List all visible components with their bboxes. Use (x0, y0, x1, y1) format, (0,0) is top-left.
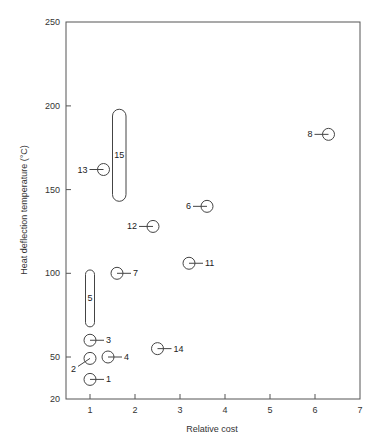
x-tick-label: 6 (312, 405, 317, 415)
x-tick-label: 1 (87, 405, 92, 415)
x-tick-label: 2 (132, 405, 137, 415)
x-tick-label: 4 (222, 405, 227, 415)
point-label: 7 (133, 268, 138, 278)
point-label: 6 (186, 201, 191, 211)
point-label: 12 (127, 221, 137, 231)
x-tick-label: 3 (177, 405, 182, 415)
range-label: 15 (114, 150, 124, 160)
point-label: 1 (106, 374, 111, 384)
range-label: 5 (87, 293, 92, 303)
x-axis-label: Relative cost (186, 424, 238, 434)
range-markers: 515 (86, 109, 127, 327)
x-axis: 1234567 (87, 394, 362, 415)
y-tick-label: 200 (45, 101, 60, 111)
y-axis-label: Heat deflection temperature (°C) (19, 145, 29, 275)
x-tick-label: 5 (267, 405, 272, 415)
y-tick-label: 250 (45, 17, 60, 27)
point-label: 4 (124, 352, 129, 362)
y-axis: 2050100150200250 (45, 17, 71, 404)
point-label: 2 (71, 364, 76, 374)
point-label: 14 (174, 344, 184, 354)
scatter-chart: 2050100150200250 1234567 Relative cost H… (0, 0, 379, 448)
point-label: 13 (77, 165, 87, 175)
data-points: 123467811121314 (71, 128, 335, 385)
y-tick-label: 20 (50, 394, 60, 404)
point-label: 8 (307, 129, 312, 139)
point-label: 11 (205, 258, 214, 268)
y-tick-label: 50 (50, 352, 60, 362)
y-tick-label: 150 (45, 185, 60, 195)
y-tick-label: 100 (45, 268, 60, 278)
x-tick-label: 7 (357, 405, 362, 415)
point-label: 3 (106, 335, 111, 345)
